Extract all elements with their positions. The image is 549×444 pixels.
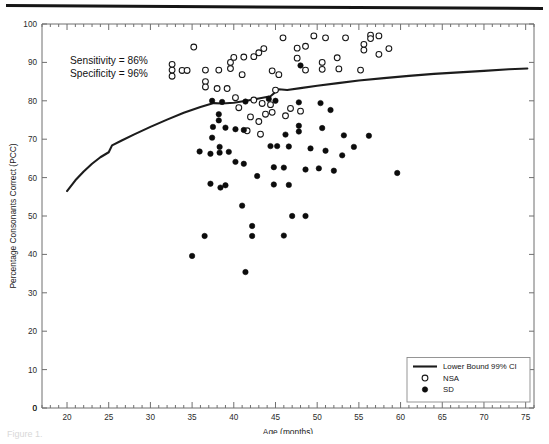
data-point-sd (281, 233, 286, 238)
data-point-sd (271, 182, 276, 187)
data-point-nsa (336, 66, 342, 72)
data-point-sd (208, 151, 213, 156)
annotation-layer: Sensitivity = 86%Specificity = 96% (70, 55, 148, 79)
data-point-sd (308, 146, 313, 151)
scatter-chart: 0102030405060708090100202530354045505560… (0, 14, 549, 434)
legend-item-label: NSA (443, 374, 460, 383)
data-point-sd (217, 144, 222, 149)
data-point-nsa (294, 55, 300, 61)
data-point-nsa (233, 95, 239, 101)
data-point-sd (296, 100, 301, 105)
page-top-rule (6, 4, 543, 10)
data-point-nsa (203, 67, 209, 73)
y-tick-label: 10 (28, 366, 38, 375)
legend-marker-nsa (422, 375, 428, 381)
data-point-sd (296, 129, 301, 134)
data-point-sd (216, 118, 221, 123)
data-point-nsa (169, 61, 175, 67)
data-point-sd (202, 233, 207, 238)
data-point-nsa (311, 33, 317, 39)
data-point-nsa (169, 73, 175, 79)
data-point-nsa (283, 113, 289, 119)
data-point-sd (266, 96, 271, 101)
data-point-sd (216, 112, 221, 117)
x-tick-label: 50 (313, 413, 323, 422)
data-point-nsa (343, 35, 349, 41)
data-point-nsa (236, 105, 242, 111)
data-point-nsa (323, 35, 329, 41)
data-point-sd (210, 124, 215, 129)
data-point-nsa (261, 46, 267, 52)
data-point-sd (226, 149, 231, 154)
data-point-sd (318, 100, 323, 105)
data-point-sd (208, 181, 213, 186)
data-point-nsa (169, 67, 175, 73)
data-point-nsa (386, 46, 392, 52)
data-point-nsa (251, 97, 257, 103)
data-point-sd (395, 170, 400, 175)
x-tick-label: 55 (354, 413, 364, 422)
data-point-nsa (228, 66, 234, 72)
x-tick-label: 30 (146, 413, 156, 422)
data-point-sd (233, 159, 238, 164)
x-tick-label: 40 (229, 413, 239, 422)
data-point-sd (218, 185, 223, 190)
x-tick-label: 20 (62, 413, 72, 422)
x-tick-label: 25 (104, 413, 114, 422)
data-point-sd (219, 99, 224, 104)
data-point-sd (189, 253, 194, 258)
data-point-nsa (216, 67, 222, 73)
data-point-nsa (241, 54, 247, 60)
x-tick-label: 70 (479, 413, 489, 422)
data-point-sd (209, 135, 214, 140)
x-tick-label: 35 (188, 413, 198, 422)
axes-layer (42, 24, 534, 408)
data-point-nsa (251, 54, 257, 60)
data-point-nsa (259, 101, 265, 107)
x-tick-label: 45 (271, 413, 281, 422)
data-point-nsa (273, 87, 279, 93)
data-point-sd (271, 165, 276, 170)
x-axis-title: Age (months) (263, 427, 313, 434)
data-point-sd (331, 168, 336, 173)
data-point-sd (223, 125, 228, 130)
data-point-sd (249, 233, 254, 238)
data-point-sd (340, 153, 345, 158)
data-point-nsa (256, 119, 262, 125)
y-tick-label: 80 (28, 97, 38, 106)
y-tick-label: 50 (28, 212, 38, 221)
data-point-nsa (361, 41, 367, 47)
y-tick-label: 20 (28, 327, 38, 336)
data-point-nsa (276, 72, 282, 78)
data-point-sd (316, 166, 321, 171)
chart-legend: Lower Bound 99% CINSASD (407, 358, 530, 403)
data-point-sd (243, 99, 248, 104)
data-point-sd (366, 133, 371, 138)
figure-caption: Figure 1. (7, 429, 43, 439)
x-tick-label: 75 (521, 413, 531, 422)
data-point-sd (303, 213, 308, 218)
data-point-sd (197, 149, 202, 154)
data-point-nsa (376, 51, 382, 57)
y-tick-label: 60 (28, 174, 38, 183)
data-point-nsa (248, 114, 254, 120)
data-point-nsa (280, 35, 286, 41)
y-tick-label: 30 (28, 289, 38, 298)
data-point-sd (281, 165, 286, 170)
data-point-sd (289, 213, 294, 218)
data-point-sd (209, 98, 214, 103)
data-point-nsa (269, 68, 275, 74)
data-point-sd (254, 173, 259, 178)
origin-label: 0 (32, 404, 37, 413)
data-point-sd (217, 150, 222, 155)
data-point-sd (268, 143, 273, 148)
data-point-nsa (268, 102, 274, 108)
data-point-nsa (288, 106, 294, 112)
data-point-nsa (239, 72, 245, 78)
data-point-sd (274, 143, 279, 148)
data-point-nsa (376, 33, 382, 39)
y-tick-label: 40 (28, 250, 38, 259)
data-point-nsa (256, 50, 262, 56)
data-point-nsa (303, 43, 309, 49)
stat-annotation: Specificity = 96% (70, 68, 148, 79)
